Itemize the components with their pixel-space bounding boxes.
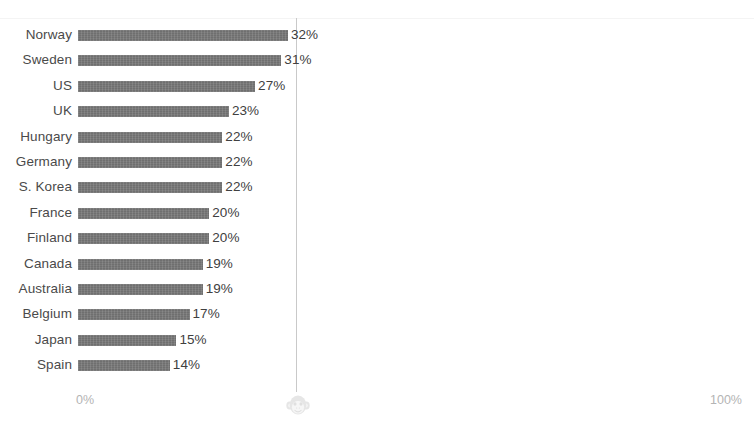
bar-track	[78, 335, 176, 346]
bar-category-label: Australia	[0, 280, 72, 298]
bar-category-label: Hungary	[0, 128, 72, 146]
bar-value-label: 27%	[258, 77, 285, 95]
bar-value-label: 22%	[225, 128, 252, 146]
bar-track	[78, 81, 255, 92]
bar-track	[78, 182, 222, 193]
bar-row: Australia19%	[0, 280, 754, 305]
bar-value-label: 22%	[225, 153, 252, 171]
bar-value-label: 19%	[206, 280, 233, 298]
bar	[78, 157, 222, 168]
bar-row: Norway32%	[0, 26, 754, 51]
bar	[78, 182, 222, 193]
bar	[78, 208, 209, 219]
bar-category-label: Japan	[0, 331, 72, 349]
bar-value-label: 20%	[212, 204, 239, 222]
x-axis-tick-max: 100%	[710, 392, 742, 408]
x-axis: 0% 100%	[0, 392, 754, 432]
bar-value-label: 15%	[179, 331, 206, 349]
bar	[78, 360, 170, 371]
bar-category-label: Belgium	[0, 305, 72, 323]
bar-row: US27%	[0, 77, 754, 102]
bar	[78, 233, 209, 244]
x-axis-tick-min: 0%	[76, 392, 94, 408]
bar	[78, 55, 281, 66]
bar-track	[78, 259, 203, 270]
bar	[78, 30, 288, 41]
bar	[78, 284, 203, 295]
bar-track	[78, 360, 170, 371]
bar	[78, 132, 222, 143]
bar-row: Canada19%	[0, 255, 754, 280]
bar-row: Sweden31%	[0, 51, 754, 76]
bar-category-label: Spain	[0, 356, 72, 374]
bar-category-label: Finland	[0, 229, 72, 247]
bar-track	[78, 284, 203, 295]
bar-row: Finland20%	[0, 229, 754, 254]
bar-value-label: 17%	[193, 305, 220, 323]
bar-track	[78, 132, 222, 143]
bar-track	[78, 55, 281, 66]
bar-value-label: 14%	[173, 356, 200, 374]
bar-value-label: 32%	[291, 26, 318, 44]
bar	[78, 335, 176, 346]
bar-row: Germany22%	[0, 153, 754, 178]
bar-value-label: 20%	[212, 229, 239, 247]
bar-row: S. Korea22%	[0, 178, 754, 203]
bar-category-label: France	[0, 204, 72, 222]
bar-track	[78, 208, 209, 219]
bar-chart: Norway32%Sweden31%US27%UK23%Hungary22%Ge…	[0, 0, 754, 432]
bar	[78, 309, 190, 320]
bar-row: France20%	[0, 204, 754, 229]
bar-category-label: S. Korea	[0, 178, 72, 196]
bar-category-label: UK	[0, 102, 72, 120]
bar-category-label: US	[0, 77, 72, 95]
bar-value-label: 23%	[232, 102, 259, 120]
bar-row: UK23%	[0, 102, 754, 127]
bar-value-label: 31%	[284, 51, 311, 69]
bar-category-label: Germany	[0, 153, 72, 171]
bar-row: Hungary22%	[0, 128, 754, 153]
bar	[78, 106, 229, 117]
bar-category-label: Sweden	[0, 51, 72, 69]
bar-category-label: Canada	[0, 255, 72, 273]
bar-row: Belgium17%	[0, 305, 754, 330]
plot-top-rule	[0, 18, 754, 19]
bar-value-label: 22%	[225, 178, 252, 196]
bar-track	[78, 309, 190, 320]
bar-track	[78, 233, 209, 244]
bar-track	[78, 157, 222, 168]
monkey-face-icon	[286, 390, 310, 418]
bar-track	[78, 30, 288, 41]
bar	[78, 81, 255, 92]
bar-category-label: Norway	[0, 26, 72, 44]
bar-row: Spain14%	[0, 356, 754, 381]
bar-track	[78, 106, 229, 117]
bar-row: Japan15%	[0, 331, 754, 356]
bar-value-label: 19%	[206, 255, 233, 273]
bar	[78, 259, 203, 270]
plot-area: Norway32%Sweden31%US27%UK23%Hungary22%Ge…	[0, 26, 754, 381]
